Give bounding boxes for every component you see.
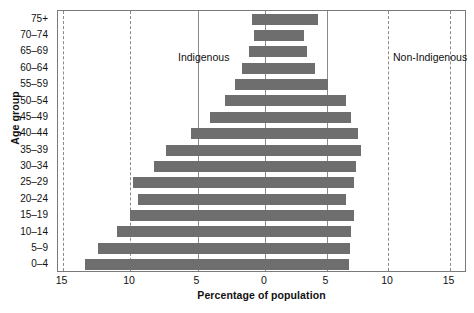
bar-indigenous bbox=[85, 259, 265, 270]
bar-indigenous bbox=[235, 79, 265, 90]
bar-indigenous bbox=[117, 226, 266, 237]
bar-row bbox=[58, 240, 465, 256]
x-tick-label: 0 bbox=[249, 274, 279, 286]
bar-non-indigenous bbox=[265, 30, 304, 41]
bar-non-indigenous bbox=[265, 259, 349, 270]
plot-area: Indigenous Non-Indigenous bbox=[57, 10, 466, 272]
y-tick-label: 30–34 bbox=[0, 160, 48, 171]
bar-row bbox=[58, 208, 465, 224]
bar-non-indigenous bbox=[265, 79, 328, 90]
bar-row bbox=[58, 224, 465, 240]
bar-non-indigenous bbox=[265, 226, 351, 237]
bar-row bbox=[58, 93, 465, 109]
bar-indigenous bbox=[249, 46, 265, 57]
bar-row bbox=[58, 158, 465, 174]
x-tick-label: 15 bbox=[47, 274, 77, 286]
y-tick-label: 60–64 bbox=[0, 62, 48, 73]
bar-row bbox=[58, 27, 465, 43]
bar-non-indigenous bbox=[265, 194, 346, 205]
y-tick-label: 35–39 bbox=[0, 144, 48, 155]
bar-indigenous bbox=[242, 63, 265, 74]
bars-layer bbox=[58, 11, 465, 271]
bar-indigenous bbox=[133, 177, 265, 188]
x-tick-label: 10 bbox=[372, 274, 402, 286]
x-axis-tick-labels: 15105051015 bbox=[57, 274, 466, 288]
y-tick-label: 45–49 bbox=[0, 111, 48, 122]
y-tick-label: 0–4 bbox=[0, 258, 48, 269]
bar-non-indigenous bbox=[265, 95, 346, 106]
bar-row bbox=[58, 126, 465, 142]
y-tick-label: 15–19 bbox=[0, 209, 48, 220]
y-tick-label: 5–9 bbox=[0, 242, 48, 253]
y-tick-label: 10–14 bbox=[0, 226, 48, 237]
bar-non-indigenous bbox=[265, 210, 354, 221]
bar-indigenous bbox=[130, 210, 265, 221]
bar-non-indigenous bbox=[265, 63, 315, 74]
bar-non-indigenous bbox=[265, 112, 351, 123]
bar-row bbox=[58, 175, 465, 191]
bar-indigenous bbox=[254, 30, 265, 41]
x-axis-title: Percentage of population bbox=[57, 289, 466, 301]
y-axis-tick-labels: 0–45–910–1415–1920–2425–2930–3435–3940–4… bbox=[0, 10, 52, 272]
y-tick-label: 40–44 bbox=[0, 127, 48, 138]
bar-indigenous bbox=[138, 194, 265, 205]
bar-indigenous bbox=[166, 145, 265, 156]
bar-non-indigenous bbox=[265, 161, 356, 172]
y-tick-label: 55–59 bbox=[0, 78, 48, 89]
bar-row bbox=[58, 109, 465, 125]
bar-indigenous bbox=[98, 243, 265, 254]
bar-non-indigenous bbox=[265, 177, 354, 188]
bar-indigenous bbox=[252, 14, 266, 25]
bar-row bbox=[58, 11, 465, 27]
bar-indigenous bbox=[154, 161, 265, 172]
bar-row bbox=[58, 142, 465, 158]
y-tick-label: 20–24 bbox=[0, 193, 48, 204]
bar-non-indigenous bbox=[265, 46, 307, 57]
bar-row bbox=[58, 257, 465, 273]
bar-row bbox=[58, 77, 465, 93]
x-tick-label: 10 bbox=[114, 274, 144, 286]
bar-row bbox=[58, 191, 465, 207]
y-tick-label: 70–74 bbox=[0, 29, 48, 40]
x-tick-label: 5 bbox=[311, 274, 341, 286]
y-tick-label: 25–29 bbox=[0, 176, 48, 187]
y-tick-label: 75+ bbox=[0, 13, 48, 24]
y-tick-label: 65–69 bbox=[0, 45, 48, 56]
annotation-non-indigenous: Non-Indigenous bbox=[393, 51, 467, 63]
population-pyramid-chart: Age group 0–45–910–1415–1920–2425–2930–3… bbox=[0, 0, 474, 313]
bar-non-indigenous bbox=[265, 128, 358, 139]
x-tick-label: 15 bbox=[434, 274, 464, 286]
y-tick-label: 50–54 bbox=[0, 95, 48, 106]
bar-non-indigenous bbox=[265, 243, 350, 254]
x-tick-label: 5 bbox=[182, 274, 212, 286]
bar-non-indigenous bbox=[265, 14, 318, 25]
bar-indigenous bbox=[225, 95, 266, 106]
bar-indigenous bbox=[210, 112, 265, 123]
annotation-indigenous: Indigenous bbox=[178, 51, 229, 63]
bar-indigenous bbox=[191, 128, 265, 139]
bar-non-indigenous bbox=[265, 145, 361, 156]
